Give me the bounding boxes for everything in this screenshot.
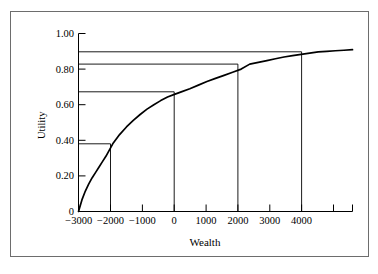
x-tick-label-4000: 4000 xyxy=(282,216,322,227)
utility-curve xyxy=(79,50,353,212)
y-axis-ticks xyxy=(79,34,86,212)
x-axis-ticks xyxy=(79,205,353,212)
y-axis-label: Utility xyxy=(36,112,47,139)
y-tick-label-0-40: 0.40 xyxy=(44,136,74,147)
x-axis-label: Wealth xyxy=(155,236,255,248)
y-tick-label-0-20: 0.20 xyxy=(44,171,74,182)
horizontal-reference-lines xyxy=(79,52,302,144)
y-tick-label-1-00: 1.00 xyxy=(44,29,74,40)
y-tick-label-0-80: 0.80 xyxy=(44,65,74,76)
axis-lines xyxy=(79,34,353,212)
figure: 1.00 0.80 0.60 0.40 0.20 0 −3000 −2000 −… xyxy=(0,0,378,274)
vertical-reference-lines xyxy=(111,52,302,212)
y-tick-label-0-60: 0.60 xyxy=(44,100,74,111)
